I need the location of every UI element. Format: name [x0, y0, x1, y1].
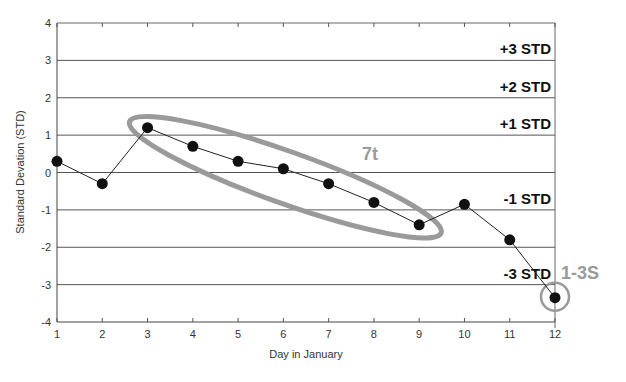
- plot-frame: [57, 23, 555, 328]
- y-tick-label: -1: [41, 204, 51, 216]
- label-7t: 7t: [362, 144, 378, 164]
- y-tick-label: 3: [45, 54, 51, 66]
- data-point: [233, 156, 244, 167]
- data-point: [550, 292, 561, 303]
- ellipse-7t: [121, 97, 450, 257]
- data-point: [323, 178, 334, 189]
- data-point: [414, 219, 425, 230]
- data-point: [504, 234, 515, 245]
- y-tick-label: -4: [41, 316, 51, 328]
- y-tick-label: -3: [41, 279, 51, 291]
- x-tick-label: 2: [99, 328, 105, 340]
- x-tick-label: 1: [54, 328, 60, 340]
- levey-jennings-chart: 43210-1-2-3-4 123456789101112 +3 STD+2 S…: [0, 0, 626, 382]
- y-tick-label: 4: [45, 17, 51, 29]
- gridlines: [57, 60, 555, 284]
- x-tick-label: 7: [326, 328, 332, 340]
- std-label: +2 STD: [500, 78, 551, 95]
- data-point: [187, 141, 198, 152]
- label-1-3s: 1-3S: [561, 263, 599, 283]
- x-tick-label: 12: [549, 328, 561, 340]
- data-point: [52, 156, 63, 167]
- data-point: [278, 163, 289, 174]
- x-tick-label: 3: [144, 328, 150, 340]
- x-tick-label: 10: [458, 328, 470, 340]
- y-tick-label: 0: [45, 167, 51, 179]
- std-labels: +3 STD+2 STD+1 STD-1 STD-3 STD: [500, 40, 551, 281]
- y-tick-label: 1: [45, 129, 51, 141]
- y-axis-label: Standard Devation (STD): [14, 110, 26, 234]
- y-tick-label: -2: [41, 241, 51, 253]
- data-point: [368, 197, 379, 208]
- x-tick-label: 9: [416, 328, 422, 340]
- x-tick-label: 11: [504, 328, 515, 340]
- y-axis-ticks: 43210-1-2-3-4: [41, 17, 51, 328]
- x-axis-label: Day in January: [269, 348, 343, 360]
- data-point: [97, 178, 108, 189]
- std-label: -1 STD: [503, 190, 551, 207]
- std-label: +3 STD: [500, 40, 551, 57]
- data-point: [459, 199, 470, 210]
- x-tick-label: 5: [235, 328, 241, 340]
- std-label: +1 STD: [500, 115, 551, 132]
- std-label: -3 STD: [503, 265, 551, 282]
- data-point: [142, 122, 153, 133]
- x-tick-label: 4: [190, 328, 196, 340]
- x-tick-label: 6: [280, 328, 286, 340]
- x-axis-ticks: 123456789101112: [54, 23, 561, 340]
- y-tick-label: 2: [45, 92, 51, 104]
- x-tick-label: 8: [371, 328, 377, 340]
